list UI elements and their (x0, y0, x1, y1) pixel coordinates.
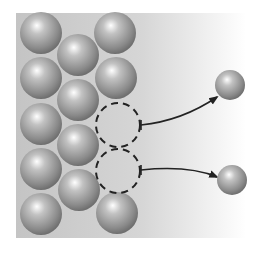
atom-sphere (57, 124, 99, 166)
atom-sphere (95, 57, 137, 99)
diagram-canvas (0, 0, 261, 253)
atom-sphere (58, 169, 100, 211)
atom-sphere (20, 148, 62, 190)
ejected-atom-sphere (215, 70, 245, 100)
atom-sphere (96, 192, 138, 234)
atom-sphere (94, 12, 136, 54)
atom-sphere (20, 57, 62, 99)
atom-sphere (57, 79, 99, 121)
atom-sphere (20, 103, 62, 145)
ejected-atom-sphere (217, 165, 247, 195)
atom-sphere (57, 34, 99, 76)
diagram-svg (0, 0, 261, 253)
atom-sphere (20, 193, 62, 235)
atom-sphere (20, 12, 62, 54)
